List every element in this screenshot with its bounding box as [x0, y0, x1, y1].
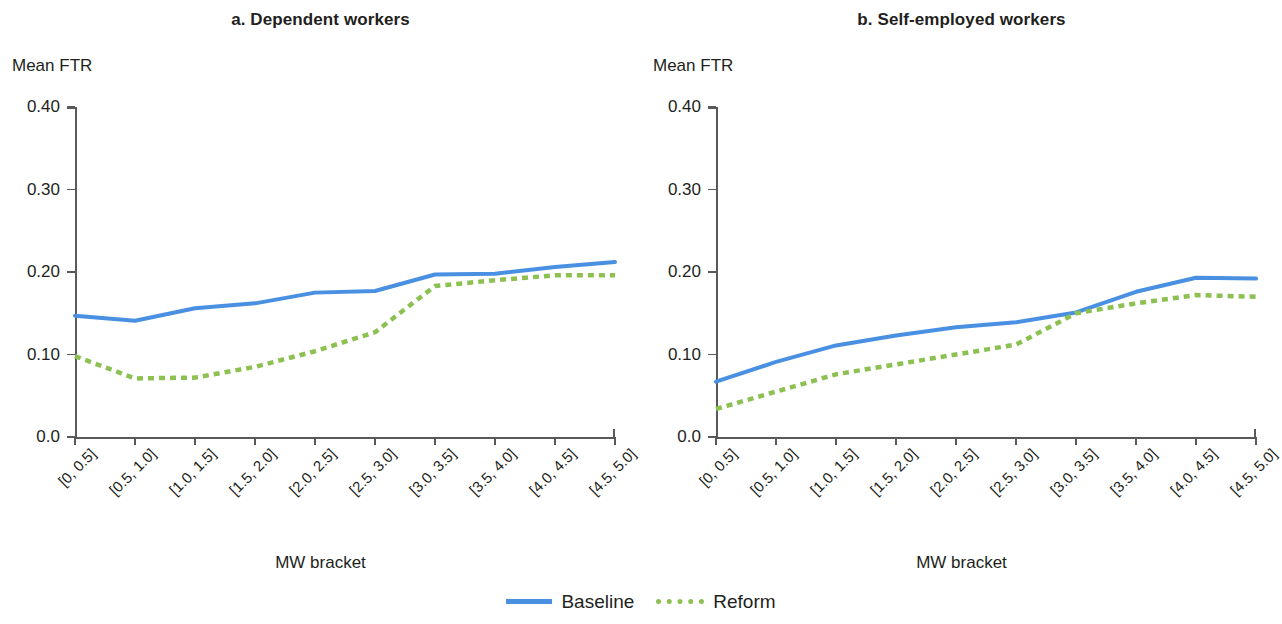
x-axis-label: MW bracket	[641, 553, 1282, 573]
y-tick-label: 0.30	[668, 180, 701, 200]
x-axis-tick	[715, 437, 717, 445]
x-axis-tick	[254, 437, 256, 445]
legend-item-reform: Reform	[656, 592, 775, 611]
x-axis-tick	[494, 437, 496, 445]
y-tick-label: 0.0	[36, 427, 60, 447]
legend-label: Reform	[713, 592, 775, 611]
chart-legend: BaselineReform	[0, 592, 1282, 611]
x-axis-tick	[314, 437, 316, 445]
legend-label: Baseline	[561, 592, 634, 611]
y-tick-label: 0.40	[27, 97, 60, 117]
y-tick-labels: 0.400.300.200.100.0	[700, 107, 701, 437]
x-axis-tick	[554, 437, 556, 445]
y-axis-tick	[708, 271, 716, 273]
series-baseline	[75, 262, 615, 321]
y-axis-tick	[708, 189, 716, 191]
series-lines	[75, 107, 615, 437]
y-tick-label: 0.10	[27, 345, 60, 365]
legend-item-baseline: Baseline	[506, 592, 634, 611]
y-axis-tick	[708, 354, 716, 356]
panel-title: a. Dependent workers	[0, 10, 641, 30]
x-axis-tick	[1015, 437, 1017, 445]
plot-area: 0.400.300.200.100.0[0, 0.5][0.5, 1.0][1.…	[75, 107, 615, 437]
x-axis-tick	[1075, 437, 1077, 445]
x-axis-tick	[434, 437, 436, 445]
y-axis-tick	[67, 271, 75, 273]
x-axis-tick	[775, 437, 777, 445]
y-axis-tick	[67, 189, 75, 191]
y-axis-label: Mean FTR	[12, 56, 92, 76]
x-axis-tick	[134, 437, 136, 445]
legend-swatch-dotted	[656, 599, 704, 604]
x-axis-tick	[194, 437, 196, 445]
y-tick-labels: 0.400.300.200.100.0	[59, 107, 60, 437]
y-axis-label: Mean FTR	[653, 56, 733, 76]
panel-dependent-workers: a. Dependent workers Mean FTR 0.400.300.…	[0, 0, 641, 590]
plot-area: 0.400.300.200.100.0[0, 0.5][0.5, 1.0][1.…	[716, 107, 1256, 437]
y-tick-label: 0.20	[27, 262, 60, 282]
x-axis-tick	[374, 437, 376, 445]
y-tick-label: 0.0	[677, 427, 701, 447]
x-axis-tick	[1135, 437, 1137, 445]
x-axis-label: MW bracket	[0, 553, 641, 573]
x-axis-line	[75, 437, 615, 439]
y-tick-label: 0.40	[668, 97, 701, 117]
y-axis-tick	[708, 106, 716, 108]
x-axis-tick	[895, 437, 897, 445]
x-axis-tick	[74, 437, 76, 445]
panel-title: b. Self-employed workers	[641, 10, 1282, 30]
series-reform	[716, 295, 1256, 409]
x-axis-tick	[1195, 437, 1197, 445]
y-axis-tick	[67, 106, 75, 108]
x-axis-tick	[1255, 437, 1257, 445]
x-axis-line	[716, 437, 1256, 439]
x-axis-tick	[835, 437, 837, 445]
legend-swatch-solid	[506, 599, 552, 604]
figure-container: a. Dependent workers Mean FTR 0.400.300.…	[0, 0, 1282, 624]
x-axis-tick	[955, 437, 957, 445]
x-axis-tick	[614, 437, 616, 445]
y-tick-label: 0.30	[27, 180, 60, 200]
y-axis-tick	[67, 354, 75, 356]
panel-self-employed-workers: b. Self-employed workers Mean FTR 0.400.…	[641, 0, 1282, 590]
series-baseline	[716, 278, 1256, 382]
y-tick-label: 0.10	[668, 345, 701, 365]
y-tick-label: 0.20	[668, 262, 701, 282]
series-lines	[716, 107, 1256, 437]
